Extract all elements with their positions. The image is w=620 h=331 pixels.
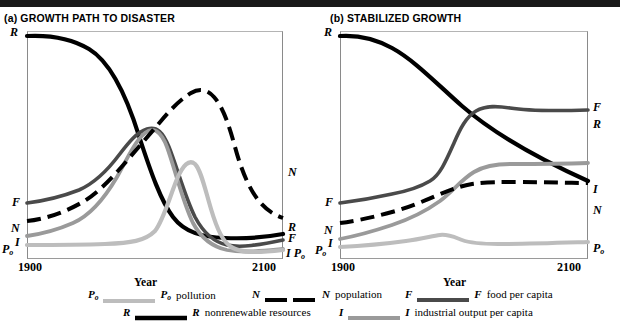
legend-symbol-Po-right-sub: o [167,293,171,302]
panel-b-right-label-R: R [593,118,601,130]
legend-symbol-N-left: N [252,288,260,300]
panel-b-right-label-Po-sub: o [600,247,604,256]
panel-b-xtick-end: 2100 [557,260,581,275]
legend-text-industrial: industrial output per capita [415,306,533,318]
panel-a-xtick-start: 1900 [18,260,42,275]
panel-b-left-label-I: I [328,237,333,249]
legend-item-pollution: Po Po pollution [88,288,216,302]
legend-symbol-I-left: I [339,306,343,318]
top-divider-bar [0,0,620,7]
panel-a-left-label-Po-sub: o [9,248,13,257]
panel-b-curve-Po [340,235,588,247]
panel-a-left-label-I: I [15,236,20,248]
legend-symbol-I-right: I [405,306,409,318]
legend-item-food: F F food per capita [405,288,553,300]
panel-b-left-label-N: N [324,224,333,236]
legend-symbol-F-right: F [474,288,481,300]
legend-text-food: food per capita [487,288,553,300]
panel-a-right-label-F: F [288,232,296,244]
panel-b-curves [340,31,588,259]
legend-item-resources: R R nonrenewable resources [123,306,311,318]
panel-a-curve-R [27,36,283,238]
panel-a-title: (a) GROWTH PATH TO DISASTER [4,12,175,24]
panel-a-right-label-I: I [286,246,291,260]
panel-a-right-label-Po-sub: o [301,252,305,261]
panel-b-right-label-Po: Po [593,242,604,256]
panel-b-left-label-Po: Po [315,244,326,258]
panel-b-curve-I [340,163,588,239]
panel-a-plot-area [27,31,283,259]
legend: Po Po pollution N N population F F food … [0,288,620,328]
legend-text-pollution: pollution [176,289,216,301]
panel-a-left-label-Po: Po [2,243,13,257]
legend-symbol-F-left: F [405,288,412,300]
panel-b-left-label-R: R [324,26,332,38]
legend-item-population: N N population [252,288,382,300]
panel-b-title: (b) STABILIZED GROWTH [330,12,461,24]
legend-symbol-R-right: R [192,306,199,318]
legend-symbol-R-left: R [123,306,130,318]
panel-a-left-label-N: N [11,222,20,234]
legend-symbol-Po-right: Po [160,288,170,302]
panel-b-xaxis-title: Year [443,276,466,288]
panel-b-curve-N [340,182,588,223]
panel-a-right-label-N: N [288,166,297,178]
panel-b-right-label-I: I [593,183,598,195]
panel-b-plot-area [340,31,588,259]
panel-b-xtick-start: 1900 [331,260,355,275]
panel-a-left-label-R: R [10,26,18,38]
panel-b-left-label-F: F [325,196,333,208]
panel-a-xtick-end: 2100 [252,260,276,275]
legend-symbol-Po-left-sub: o [95,293,99,302]
legend-row-2: R R nonrenewable resources I I industria… [0,306,620,323]
panel-a-curve-N [27,90,283,221]
legend-item-industrial: I I industrial output per capita [339,306,533,318]
legend-symbol-Po-left-main: P [88,288,95,300]
panel-b-right-label-N: N [593,204,602,216]
legend-symbol-Po-left: Po [88,288,98,302]
panel-a-left-label-F: F [12,196,20,208]
panel-a-right-label-Po-main: P [294,246,301,260]
legend-text-population: population [335,288,382,300]
panel-b-curve-F [340,106,588,203]
legend-row-1: Po Po pollution N N population F F food … [0,288,620,305]
panel-a-curves [27,31,283,259]
panel-b-right-label-F: F [593,101,601,113]
legend-symbol-N-right: N [322,288,330,300]
panel-b-left-label-Po-sub: o [322,249,326,258]
legend-text-resources: nonrenewable resources [205,306,311,318]
panel-a-xaxis-title: Year [134,276,157,288]
panel-a-right-label-IPo: I Po [286,247,305,261]
panel-b-curve-R [340,36,588,181]
